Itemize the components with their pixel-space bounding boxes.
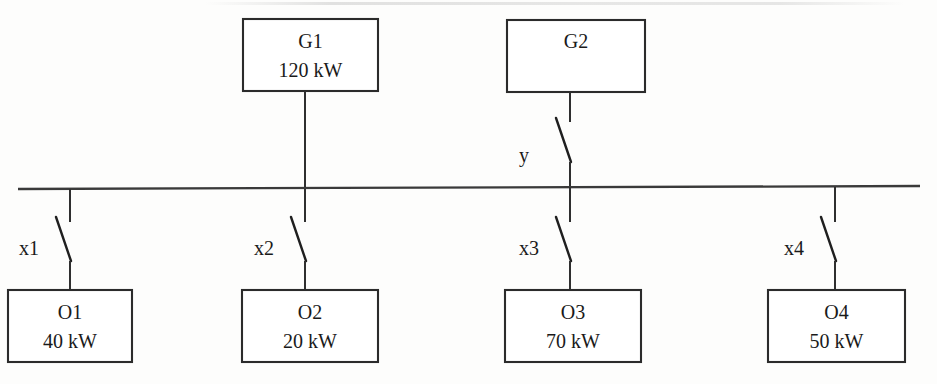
load-rating-o1: 40 kW	[43, 330, 97, 352]
load-rating-o2: 20 kW	[283, 330, 337, 352]
single-line-diagram: G1 120 kW G2 y x1 O1 40	[0, 0, 937, 384]
load-rating-o4: 50 kW	[810, 330, 864, 352]
source-rating-g1: 120 kW	[279, 59, 343, 81]
feeder-branch-x3[interactable]: x3 O3 70 kW	[505, 187, 641, 362]
switch-label-x2: x2	[254, 237, 274, 259]
switch-blade-x2[interactable]	[291, 217, 306, 261]
switch-blade-x3[interactable]	[556, 217, 571, 261]
main-busbar[interactable]	[18, 186, 920, 189]
diagram-canvas: G1 120 kW G2 y x1 O1 40	[0, 0, 937, 384]
load-rating-o3: 70 kW	[546, 330, 600, 352]
load-label-o3: O3	[561, 301, 585, 323]
switch-blade-x4[interactable]	[821, 217, 836, 261]
switch-blade-x1[interactable]	[56, 217, 71, 261]
switch-label-x3: x3	[519, 237, 539, 259]
switch-label-y: y	[519, 144, 529, 167]
load-label-o4: O4	[824, 301, 848, 323]
switch-blade-y[interactable]	[556, 118, 571, 162]
feeder-branch-x2[interactable]: x2 O2 20 kW	[242, 189, 378, 362]
load-label-o2: O2	[298, 301, 322, 323]
source-node-g1[interactable]: G1 120 kW	[243, 19, 378, 189]
source-label-g2: G2	[564, 30, 588, 52]
load-label-o1: O1	[58, 301, 82, 323]
switch-label-x4: x4	[784, 237, 804, 259]
source-label-g1: G1	[298, 30, 322, 52]
switch-label-x1: x1	[19, 237, 39, 259]
source-node-g2[interactable]: G2 y	[507, 20, 645, 187]
feeder-branch-x1[interactable]: x1 O1 40 kW	[8, 189, 132, 362]
feeder-branch-x4[interactable]: x4 O4 50 kW	[768, 187, 905, 362]
